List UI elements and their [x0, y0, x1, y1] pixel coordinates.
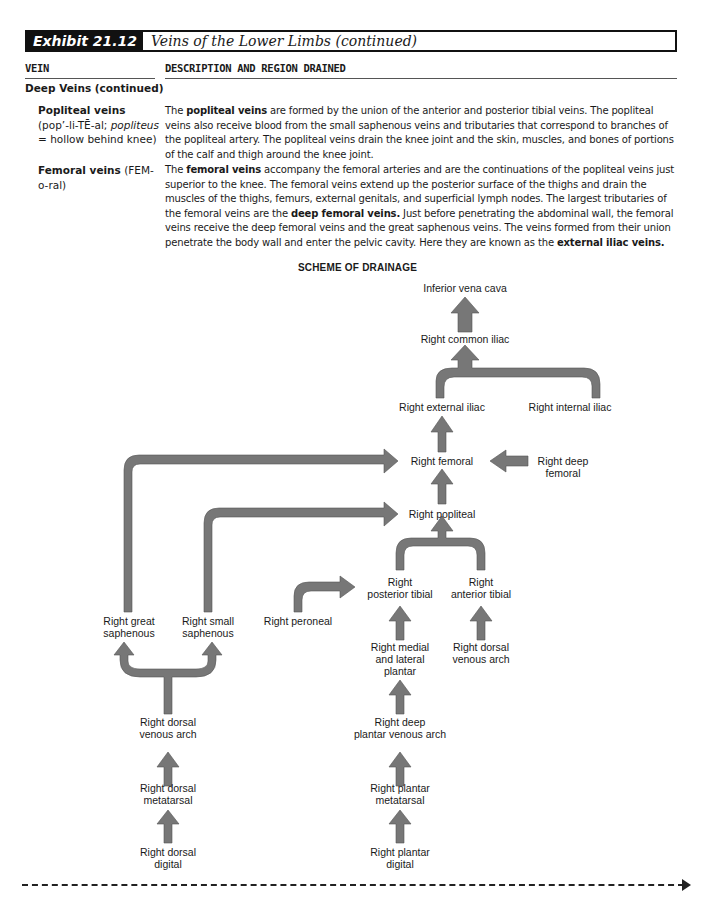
node-plantar-digital: digital	[386, 858, 413, 870]
node-dorsal-venous-arch-right: Right dorsal	[453, 641, 509, 653]
node-ivc: Inferior vena cava	[423, 282, 507, 294]
node-great-saphenous: saphenous	[103, 627, 154, 639]
fork-arrow-icon	[396, 516, 485, 570]
node-internal-iliac: Right internal iliac	[529, 401, 612, 413]
node-medial-lateral-plantar: and lateral	[375, 653, 424, 665]
node-medial-lateral-plantar: plantar	[384, 665, 417, 677]
node-dorsal-venous-arch-left: Right dorsal	[140, 716, 196, 728]
arrow-up-icon	[431, 416, 453, 452]
node-anterior-tibial: anterior tibial	[451, 588, 511, 600]
arrow-up-icon	[389, 810, 411, 843]
fork-arrow-icon	[114, 642, 222, 714]
node-posterior-tibial: posterior tibial	[367, 588, 432, 600]
elbow-arrow-icon	[124, 449, 398, 612]
drainage-diagram: Inferior vena cava Right common iliac Ri…	[0, 0, 715, 898]
arrow-up-icon	[451, 297, 479, 332]
node-plantar-metatarsal: Right plantar	[370, 782, 430, 794]
node-popliteal: Right popliteal	[409, 508, 476, 520]
node-plantar-metatarsal: metatarsal	[375, 794, 424, 806]
arrow-up-icon	[157, 752, 179, 786]
node-dorsal-metatarsal: Right dorsal	[140, 782, 196, 794]
node-small-saphenous: saphenous	[182, 627, 233, 639]
arrow-up-icon	[389, 680, 411, 714]
node-external-iliac: Right external iliac	[399, 401, 485, 413]
arrow-up-icon	[470, 606, 492, 640]
node-plantar-digital: Right plantar	[370, 846, 430, 858]
fork-arrow-icon	[436, 345, 600, 398]
node-femoral: Right femoral	[411, 455, 473, 467]
continuation-arrow-icon	[682, 879, 691, 891]
arrow-up-icon	[389, 752, 411, 786]
arrow-up-icon	[389, 606, 411, 640]
node-medial-lateral-plantar: Right medial	[371, 641, 429, 653]
node-posterior-tibial: Right	[388, 576, 413, 588]
node-great-saphenous: Right great	[103, 615, 154, 627]
node-deep-femoral: femoral	[545, 467, 580, 479]
arrow-up-icon	[157, 810, 179, 843]
node-dorsal-digital: digital	[154, 858, 181, 870]
arrow-up-icon	[431, 469, 453, 504]
node-dorsal-venous-arch-left: venous arch	[139, 728, 196, 740]
continuation-dashed-line	[22, 884, 684, 886]
node-common-iliac: Right common iliac	[421, 333, 510, 345]
node-deep-plantar-arch: plantar venous arch	[354, 728, 446, 740]
node-small-saphenous: Right small	[182, 615, 234, 627]
arrow-left-icon	[490, 450, 528, 472]
node-deep-plantar-arch: Right deep	[375, 716, 426, 728]
node-dorsal-metatarsal: metatarsal	[143, 794, 192, 806]
elbow-arrow-icon	[294, 576, 355, 612]
node-anterior-tibial: Right	[469, 576, 494, 588]
node-deep-femoral: Right deep	[538, 455, 589, 467]
node-dorsal-venous-arch-right: venous arch	[452, 653, 509, 665]
arrows	[114, 297, 600, 843]
node-peroneal: Right peroneal	[264, 615, 332, 627]
node-dorsal-digital: Right dorsal	[140, 846, 196, 858]
